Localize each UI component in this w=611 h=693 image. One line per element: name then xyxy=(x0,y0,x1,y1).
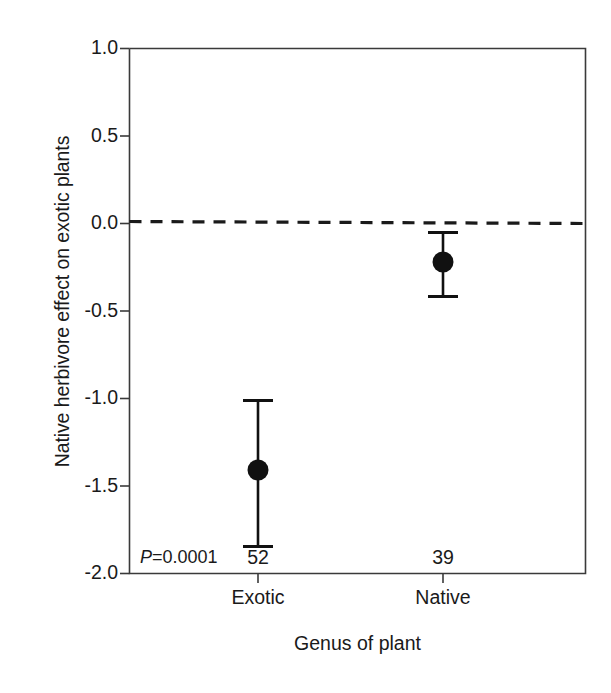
sample-size-exotic: 52 xyxy=(198,546,318,569)
sample-size-native: 39 xyxy=(383,546,503,569)
plot-frame xyxy=(130,49,586,574)
x-axis-title: Genus of plant xyxy=(129,632,586,655)
error-bar-chart: Native herbivore effect on exotic plants… xyxy=(0,0,611,693)
y-axis-ticks xyxy=(120,49,130,574)
x-tick-label: Native xyxy=(415,586,470,608)
p-value-symbol: P xyxy=(140,547,152,567)
x-tick-exotic: Exotic xyxy=(178,586,338,609)
data-point-native[interactable] xyxy=(428,232,458,297)
zero-reference-line xyxy=(130,222,586,224)
x-axis-ticks xyxy=(258,574,443,584)
data-point-exotic[interactable] xyxy=(243,400,273,547)
x-tick-label: Exotic xyxy=(231,586,284,608)
x-tick-native: Native xyxy=(363,586,523,609)
